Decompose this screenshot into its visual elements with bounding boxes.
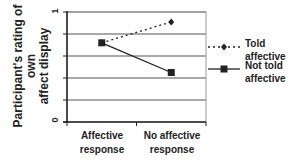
diamond-marker-icon <box>221 44 227 51</box>
square-marker-icon <box>221 66 228 73</box>
y-tick-max: 1 <box>50 8 60 13</box>
axis-ticks <box>63 12 206 126</box>
y-tick-min: 0 <box>50 117 60 122</box>
y-axis-label-line-1: Participant's rating of own <box>12 0 38 136</box>
x-category-line: Affective <box>62 129 142 143</box>
legend-label: Told <box>245 38 286 50</box>
legend-item-not-told-affective: Not told affective <box>245 60 286 85</box>
diamond-marker-icon <box>168 18 174 25</box>
legend-samples <box>208 44 240 73</box>
y-axis-label: Participant's rating of own affect displ… <box>12 0 51 136</box>
plot-area-border <box>67 12 206 122</box>
x-category-no-affective: No affective response <box>132 129 212 157</box>
x-category-affective: Affective response <box>62 129 142 157</box>
series-line <box>102 43 172 73</box>
gridlines <box>67 12 206 100</box>
data-series <box>98 18 175 76</box>
x-category-line: response <box>62 143 142 157</box>
x-category-line: response <box>132 143 212 157</box>
square-marker-icon <box>98 39 105 46</box>
legend-label: Not told <box>245 60 286 72</box>
y-axis-label-line-2: affect display <box>38 0 51 136</box>
square-marker-icon <box>168 69 175 76</box>
x-category-line: No affective <box>132 129 212 143</box>
legend-label: affective <box>245 73 286 85</box>
series-line <box>102 22 172 43</box>
